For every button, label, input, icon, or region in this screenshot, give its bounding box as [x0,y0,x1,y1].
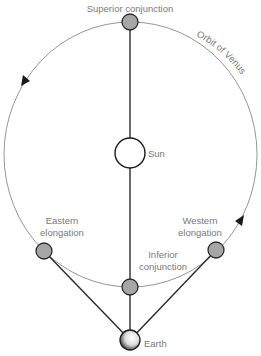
orbit-label: Orbit of Venus [195,28,249,76]
venus-phases-diagram: Superior conjunction Orbit of Venus Sun … [0,0,261,356]
western-elongation-label-line2: elongation [178,227,222,238]
eastern-elongation-label-line1: Eastern [46,215,79,226]
earth-label: Earth [144,338,167,349]
eastern-elongation-sightline [44,251,130,340]
sun [115,138,145,168]
orbit-direction-arrow-right [235,215,244,226]
inferior-conjunction-label-line2: conjunction [139,261,187,272]
venus-western-elongation [208,242,224,258]
venus-eastern-elongation [36,243,52,259]
western-elongation-label-line1: Western [182,215,217,226]
superior-conjunction-label: Superior conjunction [87,3,174,14]
venus-superior-conjunction [122,14,138,30]
orbit-label-path: Orbit of Venus [195,28,249,76]
sun-label: Sun [148,148,165,159]
eastern-elongation-label-line2: elongation [40,227,84,238]
inferior-conjunction-label-line1: Inferior [148,249,178,260]
venus-inferior-conjunction [122,279,138,295]
earth [120,330,140,350]
